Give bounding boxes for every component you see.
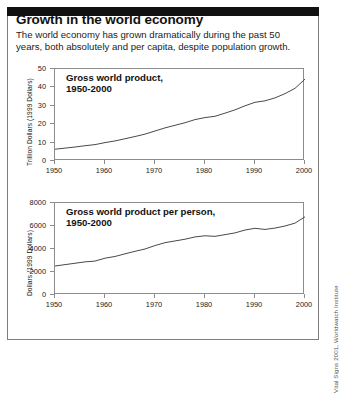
y-tick-label-0-5: 50 xyxy=(0,64,46,73)
x-tick-mark-0-4 xyxy=(254,160,255,164)
chart-title-line2-0: 1950-2000 xyxy=(66,83,163,94)
y-tick-mark-1-1 xyxy=(50,271,54,272)
x-tick-mark-1-5 xyxy=(304,294,305,298)
x-tick-label-1-1: 1960 xyxy=(96,300,112,309)
chart-title-line1-1: Gross world product per person, xyxy=(66,206,215,217)
x-tick-mark-1-2 xyxy=(154,294,155,298)
y-tick-mark-0-4 xyxy=(50,86,54,87)
y-tick-label-1-3: 6000 xyxy=(0,221,46,230)
chart-title-line2-1: 1950-2000 xyxy=(66,217,215,228)
y-tick-label-1-4: 8000 xyxy=(0,198,46,207)
y-tick-label-1-1: 2000 xyxy=(0,267,46,276)
y-tick-label-0-0: 0 xyxy=(0,156,46,165)
page-subtitle: The world economy has grown dramatically… xyxy=(16,29,294,52)
y-tick-label-0-4: 40 xyxy=(0,82,46,91)
chart-panel-gross-world-product-per-person: Dollars (1999 Dollars) Gross world produ… xyxy=(0,196,312,326)
x-tick-label-0-1: 1960 xyxy=(96,166,112,175)
x-tick-mark-1-4 xyxy=(254,294,255,298)
source-credit: Vital Signs 2001, Worldwatch Institute xyxy=(332,285,339,392)
x-tick-label-1-0: 1950 xyxy=(46,300,62,309)
x-tick-mark-1-0 xyxy=(54,294,55,298)
page-title: Growth in the world economy xyxy=(16,12,286,27)
y-tick-mark-0-1 xyxy=(50,142,54,143)
y-tick-mark-1-2 xyxy=(50,248,54,249)
y-tick-label-0-1: 10 xyxy=(0,137,46,146)
x-tick-mark-0-2 xyxy=(154,160,155,164)
y-tick-label-0-3: 30 xyxy=(0,100,46,109)
y-tick-mark-0-2 xyxy=(50,123,54,124)
y-tick-label-1-2: 4000 xyxy=(0,244,46,253)
x-tick-label-1-2: 1970 xyxy=(146,300,162,309)
y-tick-mark-0-5 xyxy=(50,68,54,69)
x-tick-mark-0-0 xyxy=(54,160,55,164)
chart-title-1: Gross world product per person,1950-2000 xyxy=(66,206,215,229)
y-tick-mark-0-3 xyxy=(50,105,54,106)
x-tick-label-0-0: 1950 xyxy=(46,166,62,175)
y-tick-mark-1-4 xyxy=(50,202,54,203)
x-tick-mark-0-1 xyxy=(104,160,105,164)
y-axis-title-1: Dollars (1999 Dollars) xyxy=(26,230,33,296)
x-tick-mark-1-3 xyxy=(204,294,205,298)
x-tick-label-0-5: 2000 xyxy=(296,166,312,175)
x-tick-label-0-3: 1980 xyxy=(196,166,212,175)
chart-panel-gross-world-product: Trillion Dollars (1999 Dollars) Gross wo… xyxy=(0,62,312,182)
y-tick-label-1-0: 0 xyxy=(0,290,46,299)
x-tick-mark-0-5 xyxy=(304,160,305,164)
x-tick-mark-0-3 xyxy=(204,160,205,164)
x-tick-mark-1-1 xyxy=(104,294,105,298)
x-tick-label-1-3: 1980 xyxy=(196,300,212,309)
x-tick-label-0-4: 1990 xyxy=(246,166,262,175)
x-tick-label-1-5: 2000 xyxy=(296,300,312,309)
x-tick-label-1-4: 1990 xyxy=(246,300,262,309)
y-tick-mark-1-3 xyxy=(50,225,54,226)
x-tick-label-0-2: 1970 xyxy=(146,166,162,175)
chart-title-line1-0: Gross world product, xyxy=(66,72,163,83)
chart-title-0: Gross world product,1950-2000 xyxy=(66,72,163,95)
y-tick-label-0-2: 20 xyxy=(0,119,46,128)
